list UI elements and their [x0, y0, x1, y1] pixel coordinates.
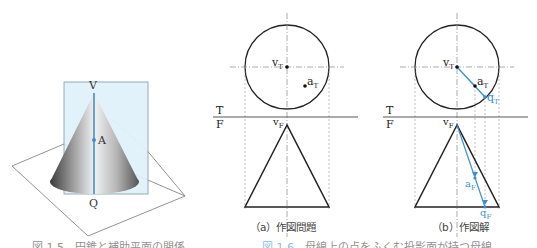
label-base-q: Q [89, 197, 98, 210]
bottom-caption-left: 図 1.5 円錐と補助平面の関係 [32, 240, 185, 248]
label-vt-b: vT [443, 56, 454, 71]
label-at-b: aT [477, 75, 488, 90]
label-apex-v: V [89, 79, 97, 92]
label-qt-b: qT [487, 91, 499, 106]
caption-b: （b）作図解 [432, 219, 489, 234]
label-point-a: A [98, 134, 106, 147]
label-t-b: T [386, 104, 393, 117]
label-vf-b: vF [443, 116, 454, 130]
label-vt: vT [272, 56, 283, 71]
label-at: aT [307, 75, 318, 90]
cone-with-plane-figure [0, 0, 537, 248]
figure-a [213, 13, 358, 237]
bottom-caption-right: 図 1.6 母線上の点をふくむ投影面が持つ母線 [262, 240, 492, 248]
label-f: F [216, 118, 224, 131]
label-f-b: F [386, 118, 394, 131]
label-vf: vF [273, 116, 284, 130]
figure-b [383, 13, 528, 237]
caption-a: （a）作図問題 [250, 219, 316, 234]
point-a-dot [92, 138, 96, 142]
label-t: T [216, 104, 223, 117]
label-af-b: aF [465, 178, 476, 192]
